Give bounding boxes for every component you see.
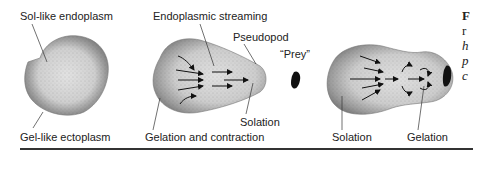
- label-prey: “Prey”: [280, 48, 310, 61]
- caption-fragment: F r h p c: [462, 8, 470, 83]
- leader-line: [33, 112, 43, 128]
- leader-line: [32, 24, 47, 62]
- horizontal-rule: [20, 148, 473, 150]
- label-sol-like-endoplasm: Sol-like endoplasm: [20, 10, 113, 23]
- resting-amoeba-cell: [25, 36, 109, 115]
- label-solation-tip: Solation: [240, 116, 280, 129]
- label-pseudopod: Pseudopod: [233, 31, 289, 44]
- engulfing-cell: [327, 45, 453, 114]
- caption-line-3: h: [462, 38, 470, 53]
- leader-line: [153, 98, 160, 130]
- label-solation: Solation: [332, 131, 372, 144]
- label-endoplasmic-streaming: Endoplasmic streaming: [153, 10, 267, 23]
- caption-line-1: F: [462, 8, 470, 23]
- prey-shape: [291, 71, 300, 88]
- label-gelation: Gelation: [407, 131, 448, 144]
- caption-line-4: p: [462, 53, 470, 68]
- caption-line-5: c: [462, 68, 470, 83]
- label-gelation-and-contraction: Gelation and contraction: [145, 131, 264, 144]
- caption-line-2: r: [462, 23, 470, 38]
- label-gel-like-ectoplasm: Gel-like ectoplasm: [20, 131, 110, 144]
